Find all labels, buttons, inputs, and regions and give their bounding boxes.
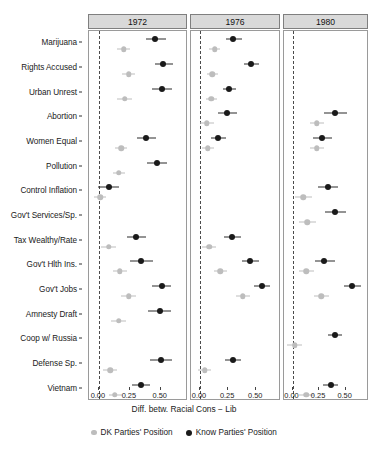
facet-plot-area-1972 (88, 30, 187, 400)
data-point (117, 269, 123, 275)
legend-marker-know-icon (186, 430, 192, 436)
data-point (229, 234, 235, 240)
x-axis-tick (255, 387, 256, 390)
data-point (259, 283, 265, 289)
data-point (247, 258, 253, 264)
x-axis-1972: 0.000.250.50 (88, 387, 187, 403)
legend-label-know: Know Parties' Position (196, 428, 277, 437)
x-axis-1976: 0.000.250.50 (190, 387, 280, 403)
x-axis-1980: 0.000.250.50 (283, 387, 368, 403)
data-point (248, 61, 254, 67)
x-axis-tick-label: 0.00 (91, 391, 105, 400)
facet-strip-1976: 1976 (190, 14, 280, 29)
x-axis-tick (129, 387, 130, 390)
facet-strip-label: 1980 (316, 17, 335, 27)
y-axis-label-pollution: Pollution (0, 161, 77, 170)
y-axis-tick (79, 42, 82, 43)
facet-plot-area-1980 (283, 30, 368, 400)
data-point (158, 357, 164, 363)
y-axis-label-women-equal: Women Equal (0, 137, 77, 146)
data-point (202, 367, 208, 373)
x-axis-tick-label: 0.50 (153, 391, 167, 400)
x-axis-tick (199, 387, 200, 390)
data-point (116, 170, 122, 176)
data-point (319, 135, 325, 141)
y-axis-tick (79, 239, 82, 240)
data-point (210, 71, 216, 77)
x-axis-tick (292, 387, 293, 390)
y-axis-label-control-inflation: Control Inflation (0, 186, 77, 195)
chart-legend: DK Parties' Position Know Parties' Posit… (0, 428, 368, 437)
x-axis-tick-label: 0.50 (248, 391, 262, 400)
data-point (332, 332, 338, 338)
y-axis-label-gov-t-services-sp: Gov't Services/Sp. (0, 211, 77, 220)
data-point (318, 293, 324, 299)
y-axis-tick (79, 141, 82, 142)
y-axis-tick (79, 363, 82, 364)
y-axis-label-vietnam: Vietnam (0, 383, 77, 392)
data-point (300, 195, 306, 201)
data-point (218, 269, 224, 275)
y-axis-label-marijuana: Marijuana (0, 38, 77, 47)
legend-item-dk: DK Parties' Position (91, 428, 173, 437)
data-point (215, 135, 221, 141)
y-axis-label-tax-wealthy-rate: Tax Wealthy/Rate (0, 235, 77, 244)
data-point (240, 293, 246, 299)
x-axis-tick-label: 0.00 (284, 391, 298, 400)
data-point (133, 234, 139, 240)
y-axis-label-urban-unrest: Urban Unrest (0, 87, 77, 96)
y-axis-tick (79, 289, 82, 290)
y-axis-tick (79, 215, 82, 216)
data-point (332, 209, 338, 215)
data-point (152, 36, 158, 42)
data-point (314, 145, 320, 151)
data-point (204, 121, 210, 127)
legend-label-dk: DK Parties' Position (101, 428, 173, 437)
y-axis-labels: MarijuanaRights AccusedUrban UnrestAbort… (0, 35, 82, 385)
data-point (121, 47, 127, 53)
data-point (118, 145, 124, 151)
data-point (107, 367, 113, 373)
zero-reference-line (200, 31, 201, 399)
y-axis-tick (79, 67, 82, 68)
x-axis-tick-label: 0.25 (122, 391, 136, 400)
facet-strip-label: 1976 (225, 17, 244, 27)
facet-plot-area-1976 (190, 30, 280, 400)
y-axis-label-gov-t-hlth-ins: Gov't Hlth Ins. (0, 260, 77, 269)
y-axis-tick (79, 313, 82, 314)
data-point (154, 160, 160, 166)
data-point (292, 343, 298, 349)
data-point (160, 61, 166, 67)
y-axis-label-abortion: Abortion (0, 112, 77, 121)
y-axis-tick (79, 387, 82, 388)
data-point (224, 110, 230, 116)
data-point (332, 110, 338, 116)
data-point (106, 184, 112, 190)
x-axis-tick (227, 387, 228, 390)
y-axis-tick (79, 91, 82, 92)
data-point (116, 318, 122, 324)
data-point (230, 357, 236, 363)
x-axis-tick-label: 0.50 (337, 391, 351, 400)
y-axis-tick (79, 165, 82, 166)
data-point (122, 96, 128, 102)
data-point (226, 86, 232, 92)
facet-strip-1980: 1980 (283, 14, 368, 29)
x-axis-tick-label: 0.25 (220, 391, 234, 400)
y-axis-label-amnesty-draft: Amnesty Draft (0, 309, 77, 318)
data-point (159, 86, 165, 92)
x-axis-tick-label: 0.00 (192, 391, 206, 400)
legend-item-know: Know Parties' Position (186, 428, 277, 437)
y-axis-label-defense-sp: Defense Sp. (0, 359, 77, 368)
y-axis-label-rights-accused: Rights Accused (0, 63, 77, 72)
y-axis-tick (79, 116, 82, 117)
x-axis-tick-label: 0.25 (311, 391, 325, 400)
x-axis-tick (160, 387, 161, 390)
y-axis-tick (79, 190, 82, 191)
coefficient-plot: MarijuanaRights AccusedUrban UnrestAbort… (0, 0, 368, 457)
data-point (157, 308, 163, 314)
y-axis-label-gov-t-jobs: Gov't Jobs (0, 285, 77, 294)
x-axis-tick (98, 387, 99, 390)
facet-strip-label: 1972 (128, 17, 147, 27)
data-point (205, 145, 211, 151)
